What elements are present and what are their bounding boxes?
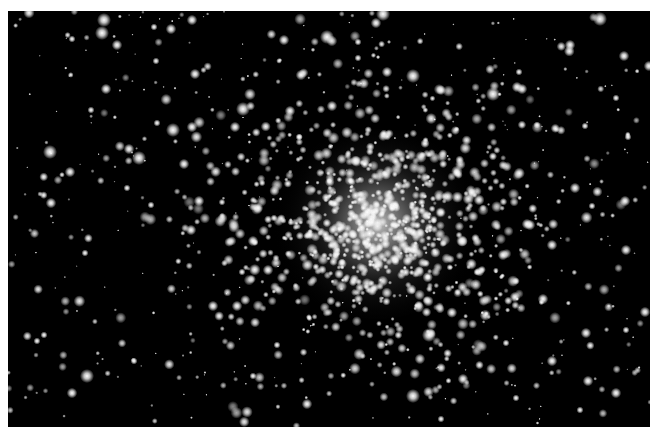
star-cluster-photo bbox=[8, 11, 650, 427]
cluster-core-glow bbox=[8, 11, 650, 427]
